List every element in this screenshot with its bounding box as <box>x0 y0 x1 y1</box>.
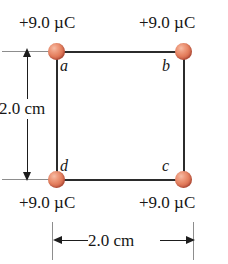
square-edge-top <box>56 51 184 53</box>
charge-square-diagram: +9.0 µC +9.0 µC +9.0 µC +9.0 µC a b c d … <box>0 0 228 264</box>
charge-value-b: +9.0 µC <box>139 13 195 33</box>
vertical-dimension-label: 2.0 cm <box>0 99 46 119</box>
square-edge-right <box>183 51 185 180</box>
square-edge-left <box>56 51 58 180</box>
charge-value-d: +9.0 µC <box>19 193 75 213</box>
arrow-left-icon <box>53 236 62 244</box>
arrow-down-icon <box>23 172 31 181</box>
square-edge-bottom <box>56 179 184 181</box>
corner-letter-b: b <box>162 58 170 74</box>
charge-sphere-b <box>175 43 192 60</box>
horizontal-dimension-label: 2.0 cm <box>88 231 134 251</box>
arrow-up-icon <box>23 48 31 57</box>
corner-letter-d: d <box>60 158 68 174</box>
arrow-right-icon <box>186 236 195 244</box>
corner-letter-c: c <box>162 158 169 174</box>
charge-value-c: +9.0 µC <box>139 193 195 213</box>
charge-value-a: +9.0 µC <box>19 13 75 33</box>
corner-letter-a: a <box>60 58 68 74</box>
charge-sphere-c <box>175 171 192 188</box>
